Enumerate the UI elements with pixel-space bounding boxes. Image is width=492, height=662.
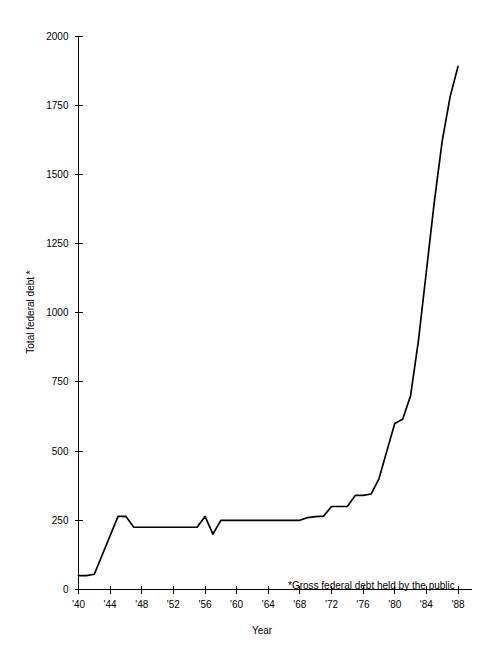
x-tick-label: '64	[262, 599, 275, 610]
x-tick-label: '40	[72, 599, 85, 610]
federal-debt-chart: 025050075010001250150017502000 '40'44'48…	[0, 0, 492, 662]
x-tick-label: '52	[167, 599, 180, 610]
x-tick-label: '44	[104, 599, 117, 610]
y-tick-label: 2000	[46, 31, 69, 42]
chart-footnote: *Gross federal debt held by the public	[288, 580, 455, 591]
y-tick-label: 1000	[46, 307, 69, 318]
y-tick-label: 1500	[46, 169, 69, 180]
y-axis-title: Total federal debt *	[25, 270, 36, 353]
y-tick-label: 0	[63, 584, 69, 595]
y-tick-label: 1750	[46, 100, 69, 111]
x-tick-label: '56	[198, 599, 211, 610]
x-tick-label: '76	[357, 599, 370, 610]
x-tick-label: '68	[293, 599, 306, 610]
data-line-total-federal-debt	[79, 66, 459, 575]
x-tick-label: '84	[420, 599, 433, 610]
x-tick-label: '60	[230, 599, 243, 610]
y-tick-label: 750	[52, 376, 69, 387]
x-tick-label: '48	[135, 599, 148, 610]
y-tick-label: 1250	[46, 238, 69, 249]
x-tick-label: '80	[388, 599, 401, 610]
x-tick-label: '88	[451, 599, 464, 610]
x-axis-title: Year	[252, 625, 273, 636]
x-tick-label: '72	[325, 599, 338, 610]
chart-figure: 025050075010001250150017502000 '40'44'48…	[0, 0, 492, 662]
y-tick-label: 250	[52, 515, 69, 526]
y-tick-label: 500	[52, 446, 69, 457]
x-axis-tick-labels: '40'44'48'52'56'60'64'68'72'76'80'84'88	[72, 599, 465, 610]
y-axis-tick-labels: 025050075010001250150017502000	[46, 31, 69, 596]
